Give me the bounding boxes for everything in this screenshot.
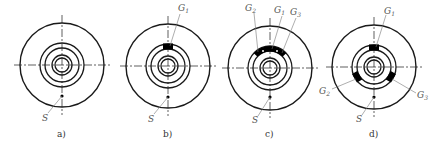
gate-g1-block [163, 44, 173, 50]
panel-a: S a) [14, 15, 110, 139]
caption-a: a) [57, 129, 66, 139]
gate-separator [262, 50, 264, 52]
gate-separator [276, 50, 278, 52]
leader-line-g3 [392, 79, 416, 93]
label-s: S [356, 114, 362, 124]
label-g1: G1 [178, 3, 189, 14]
gate-g1-block [369, 45, 379, 51]
leader-line-g1 [170, 14, 180, 46]
leader-line-g2 [254, 13, 258, 52]
leader-line-s [362, 97, 374, 115]
caption-b: b) [163, 129, 172, 139]
panel-c: G2 G1 G3 S c) [222, 3, 318, 139]
label-g1: G1 [274, 5, 285, 16]
label-g2: G2 [319, 86, 330, 97]
label-g3: G3 [417, 90, 428, 101]
leader-line-s [154, 97, 168, 114]
label-s: S [252, 115, 258, 125]
leader-line-s [258, 97, 270, 116]
label-s: S [148, 114, 154, 124]
caption-d: d) [369, 129, 378, 139]
leader-line-g3 [282, 18, 296, 53]
label-g3: G3 [290, 7, 301, 18]
gate-layout-figure: S a) G1 S b) G2 G1 G3 S c) [0, 0, 445, 145]
label-g1: G1 [384, 6, 395, 17]
caption-c: c) [265, 129, 274, 139]
leader-line-s [48, 96, 62, 113]
leader-line-g1 [376, 15, 386, 47]
panel-d: G1 G2 G3 S d) [319, 6, 428, 139]
leader-line-g1 [272, 16, 282, 49]
panel-b: G1 S b) [120, 3, 216, 139]
label-s: S [42, 113, 48, 123]
label-g2: G2 [245, 3, 256, 14]
